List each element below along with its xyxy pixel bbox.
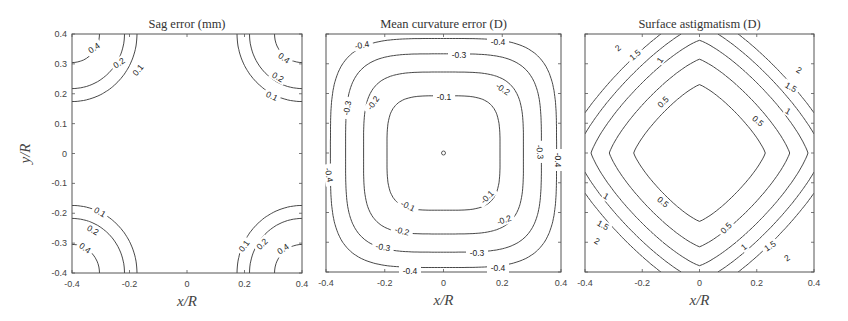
center-marker (442, 151, 446, 155)
contour-label: -0.3 (534, 144, 545, 160)
x-tick-label: 0 (441, 278, 446, 288)
contour-figure: -0.4-0.200.20.4-0.4-0.3-0.2-0.100.10.20.… (0, 0, 848, 321)
x-tick-label: 0 (697, 278, 702, 288)
x-tick-label: 0.4 (555, 278, 568, 288)
contour-label: -0.4 (491, 37, 506, 47)
contour-level--0.3 (346, 54, 542, 252)
contour-label: -0.4 (323, 167, 335, 183)
x-axis-label: x/R (176, 293, 197, 309)
x-tick-label: -0.2 (377, 278, 393, 288)
y-tick-label: -0.4 (51, 268, 67, 278)
contour-level-0.5 (634, 85, 766, 222)
x-tick-label: -0.2 (634, 278, 650, 288)
x-tick-label: 0 (184, 279, 189, 289)
x-tick-label: -0.4 (64, 279, 80, 289)
contour-label: -0.4 (354, 39, 370, 51)
x-tick-label: -0.4 (577, 278, 593, 288)
plot-title: Surface astigmatism (D) (638, 17, 760, 31)
contour-label: -0.3 (470, 248, 485, 258)
contour-label: -0.4 (491, 263, 506, 273)
contour-lines (330, 39, 556, 268)
y-tick-label: 0 (62, 149, 67, 159)
x-tick-label: 0.4 (808, 278, 821, 288)
contour-level-0.4 (72, 34, 302, 273)
plot-frame (72, 34, 302, 273)
contour-label: -0.4 (553, 153, 563, 168)
contour-label: -0.3 (452, 50, 467, 60)
mean-curvature-error-plot: -0.4-0.200.20.4Mean curvature error (D)x… (318, 17, 567, 308)
contour-level-2 (585, 34, 814, 272)
contour-level-0.1 (72, 34, 302, 273)
contour-label: -0.4 (403, 266, 418, 276)
y-tick-label: 0.1 (54, 119, 67, 129)
contour-label: -0.3 (375, 241, 391, 253)
y-tick-label: 0.3 (54, 59, 67, 69)
y-tick-label: -0.2 (51, 208, 67, 218)
y-tick-label: -0.1 (51, 178, 67, 188)
contour-label: -0.1 (437, 92, 452, 102)
x-tick-label: 0.2 (750, 278, 763, 288)
y-axis-label: y/R (17, 144, 33, 166)
x-axis-label: x/R (433, 292, 454, 308)
sag-error-plot: -0.4-0.200.20.4-0.4-0.3-0.2-0.100.10.20.… (17, 17, 308, 309)
contour-level--0.4 (330, 39, 556, 268)
contour-lines (72, 34, 302, 273)
contour-level-0.2 (72, 34, 302, 273)
x-tick-label: 0.2 (496, 278, 509, 288)
contour-label: -0.2 (394, 224, 411, 238)
y-tick-label: 0.4 (54, 29, 67, 39)
contour-level-1 (609, 59, 789, 247)
contour-label: -0.3 (341, 100, 353, 116)
contour-level-1.5 (591, 40, 808, 265)
x-tick-label: -0.2 (122, 279, 138, 289)
plot-title: Mean curvature error (D) (380, 17, 507, 31)
contour-level-2.5 (585, 34, 814, 272)
x-tick-label: -0.4 (318, 278, 334, 288)
x-tick-label: 0.2 (238, 279, 251, 289)
plot-title: Sag error (mm) (148, 17, 225, 31)
x-axis-label: x/R (689, 292, 710, 308)
x-tick-label: 0.4 (296, 279, 309, 289)
y-tick-label: 0.2 (54, 89, 67, 99)
surface-astigmatism-plot: -0.4-0.200.20.4Surface astigmatism (D)x/… (577, 17, 820, 308)
y-tick-label: -0.3 (51, 238, 67, 248)
contour-lines (585, 34, 814, 272)
plot-frame (585, 34, 814, 272)
